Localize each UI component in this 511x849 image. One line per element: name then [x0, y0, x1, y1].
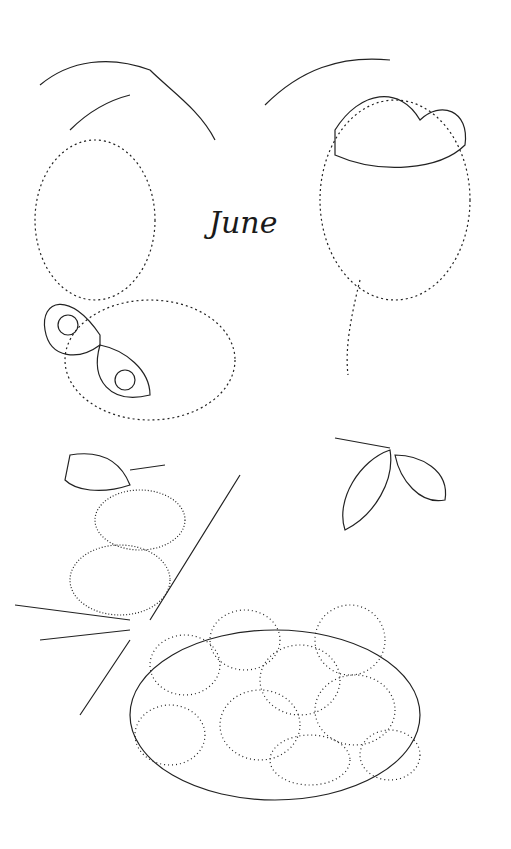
thistle-heads — [15, 475, 240, 715]
page-title: June — [209, 205, 277, 240]
ink-illustration — [0, 0, 511, 849]
tortoiseshell-butterfly-right — [335, 97, 466, 168]
buddleia-flower-spray-right — [265, 59, 470, 375]
strawberry-bowl — [130, 605, 420, 800]
small-butterfly-on-thistle — [65, 454, 165, 491]
meadow-brown-butterfly — [335, 438, 446, 530]
buddleia-flower-spray-left — [35, 62, 235, 420]
peacock-butterfly-left — [44, 304, 150, 397]
illustration-canvas: June — [0, 0, 511, 849]
